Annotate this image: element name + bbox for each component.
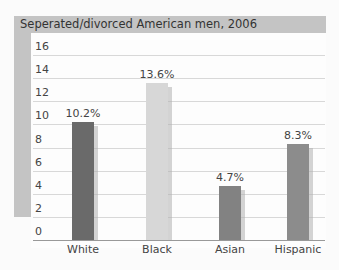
- x-category-label: White: [53, 243, 113, 256]
- y-tick-label: 16: [35, 40, 55, 53]
- x-category-label: Hispanic: [268, 243, 328, 256]
- y-tick-label: 0: [35, 225, 55, 238]
- gridline: [33, 55, 325, 56]
- bar-white: [72, 122, 94, 240]
- gridline: [33, 101, 325, 102]
- value-label: 8.3%: [273, 129, 323, 142]
- bar-hispanic: [287, 144, 309, 240]
- x-category-label: Black: [127, 243, 187, 256]
- x-category-label: Asian: [200, 243, 260, 256]
- y-tick-label: 12: [35, 86, 55, 99]
- y-tick-label: 4: [35, 179, 55, 192]
- value-label: 10.2%: [58, 107, 108, 120]
- value-label: 4.7%: [205, 171, 255, 184]
- value-label: 13.6%: [132, 68, 182, 81]
- bar-asian: [219, 186, 241, 240]
- y-tick-label: 10: [35, 109, 55, 122]
- y-tick-label: 6: [35, 156, 55, 169]
- y-tick-label: 2: [35, 202, 55, 215]
- gridline: [33, 240, 325, 241]
- chart-title: Seperated/divorced American men, 2006: [20, 17, 257, 31]
- bar-black: [146, 83, 168, 240]
- decorative-left-strip: [14, 33, 31, 217]
- y-tick-label: 14: [35, 63, 55, 76]
- y-tick-label: 8: [35, 133, 55, 146]
